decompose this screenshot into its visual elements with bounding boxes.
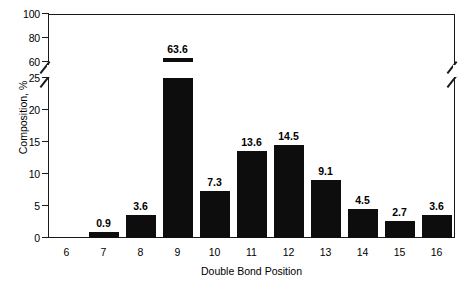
x-axis-title: Double Bond Position	[48, 265, 455, 277]
bar	[163, 78, 193, 238]
y-tick	[42, 205, 49, 206]
x-tick-label: 16	[417, 246, 457, 258]
y-tick-label: 100	[0, 9, 40, 20]
y-tick-label: 15	[0, 137, 40, 148]
axis-break-gap	[453, 65, 457, 77]
bar	[385, 221, 415, 238]
y-tick-label: 0	[0, 233, 40, 244]
bar	[311, 180, 341, 238]
bar-value-label: 0.9	[77, 218, 131, 229]
x-tick-label: 11	[232, 246, 272, 258]
x-tick-label: 13	[306, 246, 346, 258]
bar	[237, 151, 267, 238]
bar-value-label: 3.6	[114, 201, 168, 212]
bar-value-label: 9.1	[299, 166, 353, 177]
y-tick	[42, 173, 49, 174]
y-tick-label: 80	[0, 33, 40, 44]
x-tick-label: 9	[158, 246, 198, 258]
x-tick-label: 14	[343, 246, 383, 258]
bar-value-label: 3.6	[410, 201, 464, 212]
x-tick-label: 8	[121, 246, 161, 258]
y-tick-label: 10	[0, 169, 40, 180]
x-tick-label: 10	[195, 246, 235, 258]
bar	[200, 191, 230, 238]
bar	[422, 215, 452, 238]
y-tick	[42, 141, 49, 142]
bar-value-label: 7.3	[188, 177, 242, 188]
y-tick	[42, 109, 49, 110]
bar-value-label: 4.5	[336, 195, 390, 206]
bar-value-label: 63.6	[151, 44, 205, 55]
bar	[89, 232, 119, 238]
x-tick-label: 6	[47, 246, 87, 258]
y-tick-label: 5	[0, 201, 40, 212]
x-tick-label: 15	[380, 246, 420, 258]
bar	[126, 215, 156, 238]
y-tick	[42, 237, 49, 238]
y-tick	[42, 37, 49, 38]
y-tick-label: 60	[0, 57, 40, 68]
y-tick	[42, 13, 49, 14]
bar-upper-segment	[163, 58, 193, 62]
x-tick-label: 7	[84, 246, 124, 258]
y-tick-label: 25	[0, 73, 40, 84]
y-tick-label: 20	[0, 105, 40, 116]
axis-break-gap	[47, 65, 51, 77]
bar-value-label: 14.5	[262, 131, 316, 142]
bar	[274, 145, 304, 238]
x-tick-label: 12	[269, 246, 309, 258]
bar-chart: Composition, % 05101520256080100 0.93.66…	[0, 0, 464, 286]
